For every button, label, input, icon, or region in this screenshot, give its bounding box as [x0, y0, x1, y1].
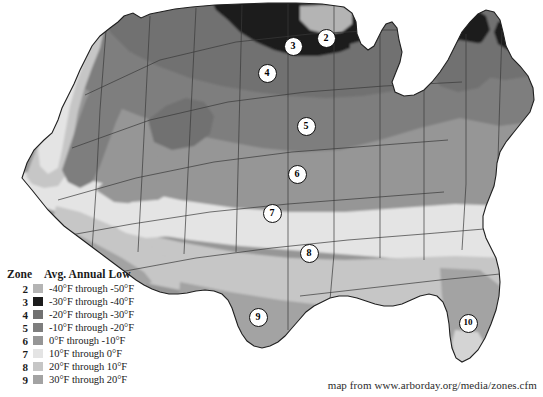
zone-marker-6[interactable]: 6 [288, 165, 307, 184]
legend-row-2[interactable]: 2 -40°F through -50°F [6, 282, 176, 295]
legend-zone-number: 8 [6, 361, 33, 373]
legend-row-9[interactable]: 9 30°F through 20°F [6, 373, 176, 386]
legend-color-swatch [33, 297, 43, 306]
legend-color-swatch [33, 310, 43, 319]
legend-color-swatch [33, 323, 43, 332]
legend-zone-number: 4 [6, 309, 33, 321]
legend-range-label: -20°F through -30°F [43, 309, 134, 320]
legend-header-low: Avg. Annual Low [44, 268, 131, 280]
legend-color-swatch [33, 375, 43, 384]
legend-zone-number: 5 [6, 322, 33, 334]
legend-header: Zone Avg. Annual Low [6, 268, 176, 280]
legend-zone-number: 7 [6, 348, 33, 360]
legend-zone-number: 9 [6, 374, 33, 386]
legend-color-swatch [33, 362, 43, 371]
legend-row-7[interactable]: 7 10°F through 0°F [6, 347, 176, 360]
legend-range-label: 30°F through 20°F [43, 374, 127, 385]
zone-marker-10[interactable]: 10 [459, 314, 478, 333]
legend-row-6[interactable]: 6 0°F through -10°F [6, 334, 176, 347]
legend-range-label: 20°F through 10°F [43, 361, 127, 372]
legend-zone-number: 6 [6, 335, 33, 347]
zone-marker-4[interactable]: 4 [258, 64, 277, 83]
legend-row-3[interactable]: 3 -30°F through -40°F [6, 295, 176, 308]
zone-legend: Zone Avg. Annual Low 2 -40°F through -50… [6, 268, 176, 386]
map-attribution[interactable]: map from www.arborday.org/media/zones.cf… [328, 379, 537, 391]
legend-range-label: -40°F through -50°F [43, 283, 134, 294]
zone-marker-3[interactable]: 3 [284, 37, 303, 56]
legend-color-swatch [33, 284, 43, 293]
legend-row-4[interactable]: 4 -20°F through -30°F [6, 308, 176, 321]
legend-zone-number: 3 [6, 296, 33, 308]
legend-color-swatch [33, 336, 43, 345]
legend-row-5[interactable]: 5 -10°F through -20°F [6, 321, 176, 334]
hardiness-zone-map-page: 2 3 4 5 6 7 8 9 10 Zone Avg. Annual Low … [0, 0, 543, 397]
legend-range-label: -30°F through -40°F [43, 296, 134, 307]
legend-range-label: -10°F through -20°F [43, 322, 134, 333]
zone-marker-5[interactable]: 5 [297, 117, 316, 136]
zone-marker-7[interactable]: 7 [263, 204, 282, 223]
legend-zone-number: 2 [6, 283, 33, 295]
zone-marker-8[interactable]: 8 [300, 244, 319, 263]
legend-range-label: 0°F through -10°F [43, 335, 125, 346]
legend-header-zone: Zone [7, 268, 41, 280]
legend-color-swatch [33, 349, 43, 358]
legend-row-8[interactable]: 8 20°F through 10°F [6, 360, 176, 373]
zone-marker-9[interactable]: 9 [249, 308, 268, 327]
legend-range-label: 10°F through 0°F [43, 348, 122, 359]
zone-marker-2[interactable]: 2 [317, 29, 336, 48]
